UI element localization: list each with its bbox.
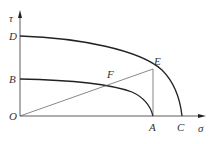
point-label-B: B bbox=[9, 73, 16, 85]
origin-label: O bbox=[9, 110, 17, 122]
inner-curve-BA bbox=[20, 79, 153, 116]
point-label-D: D bbox=[8, 30, 17, 42]
point-label-A: A bbox=[148, 121, 156, 133]
point-label-F: F bbox=[106, 68, 114, 80]
outer-curve-DC bbox=[20, 36, 182, 116]
mohr-diagram: τ σ O D B E F A C bbox=[0, 0, 216, 144]
x-axis-label: σ bbox=[198, 122, 204, 134]
y-axis-arrow-icon bbox=[18, 10, 22, 18]
x-axis-arrow-icon bbox=[198, 114, 206, 118]
point-label-C: C bbox=[177, 121, 185, 133]
y-axis-label: τ bbox=[9, 12, 14, 24]
point-label-E: E bbox=[153, 55, 161, 67]
